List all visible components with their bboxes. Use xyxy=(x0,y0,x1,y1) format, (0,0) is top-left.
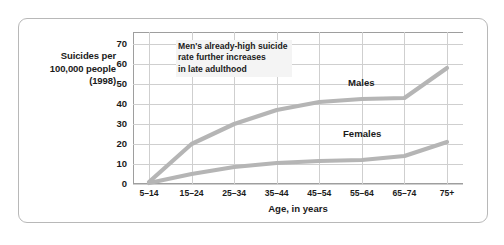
x-axis-tick-label: 15–24 xyxy=(169,188,215,198)
y-axis-tick-label: 30 xyxy=(103,118,127,129)
x-axis-tick-label: 65–74 xyxy=(381,188,427,198)
series-line-females xyxy=(149,142,447,183)
y-axis-tick-label: 70 xyxy=(103,38,127,49)
x-axis-tick-label: 45–54 xyxy=(296,188,342,198)
chart-annotation: Men's already-high suicide rate further … xyxy=(176,40,292,77)
x-axis-title: Age, in years xyxy=(133,203,463,214)
y-axis-tick-label: 40 xyxy=(103,98,127,109)
y-axis-tick-label: 60 xyxy=(103,58,127,69)
series-label-females: Females xyxy=(343,128,381,139)
chart-figure: Suicides per 100,000 people (1998) 01020… xyxy=(0,0,504,245)
y-axis-tick-label: 50 xyxy=(103,78,127,89)
y-axis-tick-label: 10 xyxy=(103,158,127,169)
series-line-males xyxy=(149,68,447,182)
gridline-horizontal xyxy=(133,184,463,185)
x-axis-tick-label: 5–14 xyxy=(126,188,172,198)
series-label-males: Males xyxy=(348,77,375,88)
x-axis-tick-label: 55–64 xyxy=(339,188,385,198)
x-axis-tick-label: 75+ xyxy=(424,188,470,198)
y-axis-tick-label: 20 xyxy=(103,138,127,149)
y-axis-tick-label: 0 xyxy=(103,178,127,189)
x-axis-tick-label: 25–34 xyxy=(211,188,257,198)
x-axis-tick-label: 35–44 xyxy=(254,188,300,198)
